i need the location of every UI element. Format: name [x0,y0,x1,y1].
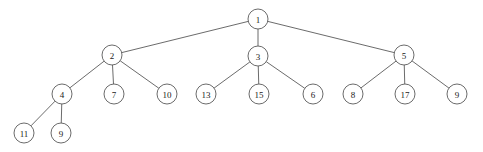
node-circle [447,84,467,104]
tree-node[interactable]: 4 [52,84,72,104]
tree-diagram: 12354710131568179119 [0,0,483,152]
node-circle [395,84,415,104]
tree-edge [113,65,114,84]
node-circle [51,123,71,143]
node-circle [303,84,323,104]
tree-node[interactable]: 9 [51,123,71,143]
tree-node[interactable]: 9 [447,84,467,104]
tree-node[interactable]: 5 [394,45,414,65]
tree-node[interactable]: 3 [248,46,268,66]
tree-node[interactable]: 17 [395,84,415,104]
tree-node[interactable]: 6 [303,84,323,104]
tree-edge [268,21,395,52]
node-circle [14,123,34,143]
tree-edge [70,61,104,88]
tree-canvas: 12354710131568179119 [0,0,483,152]
node-circle [394,45,414,65]
node-circle [248,46,268,66]
tree-edge [214,62,250,88]
tree-node[interactable]: 15 [249,84,269,104]
node-circle [248,9,268,29]
node-circle [52,84,72,104]
tree-node[interactable]: 8 [343,84,363,104]
node-circle [104,84,124,104]
tree-edge [361,61,396,88]
node-circle [343,84,363,104]
tree-node[interactable]: 1 [248,9,268,29]
tree-edge [412,61,449,88]
tree-node[interactable]: 13 [196,84,216,104]
edge-layer [31,21,449,125]
tree-edge [120,61,159,88]
tree-node[interactable]: 2 [102,45,122,65]
node-circle [102,45,122,65]
tree-edge [266,62,305,89]
node-circle [196,84,216,104]
tree-edge [31,101,55,126]
tree-node[interactable]: 11 [14,123,34,143]
tree-node[interactable]: 7 [104,84,124,104]
node-circle [249,84,269,104]
tree-node[interactable]: 10 [157,84,177,104]
tree-edge [122,21,249,52]
node-layer: 12354710131568179119 [14,9,467,143]
node-circle [157,84,177,104]
